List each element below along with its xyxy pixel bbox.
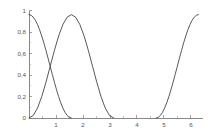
y-tick-label-2: 0,4	[17, 71, 26, 78]
x-tick-marks	[43, 115, 191, 118]
plot-canvas: 0 0,2 0,4 0,6 0,8 1 1 2 3 4 5 6	[0, 0, 208, 136]
x-tick-label-2: 3	[108, 121, 112, 128]
x-tick-label-0: 1	[54, 121, 58, 128]
x-tick-label-5: 6	[189, 121, 193, 128]
y-tick-marks	[29, 11, 32, 119]
y-tick-label-1: 0,2	[17, 93, 26, 100]
chart-container: 0 0,2 0,4 0,6 0,8 1 1 2 3 4 5 6	[0, 0, 208, 136]
data-curve-curve-2	[29, 15, 114, 118]
x-tick-label-1: 2	[81, 121, 85, 128]
x-tick-label-3: 4	[135, 121, 139, 128]
y-tick-label-5: 1	[23, 7, 27, 14]
data-curves	[29, 15, 199, 118]
y-tick-label-0: 0	[23, 114, 27, 121]
y-tick-label-4: 0,8	[17, 28, 26, 35]
y-tick-label-3: 0,6	[17, 50, 26, 57]
x-tick-labels: 1 2 3 4 5 6	[54, 121, 193, 128]
data-curve-curve-3	[156, 15, 198, 118]
y-tick-labels: 0 0,2 0,4 0,6 0,8 1	[17, 7, 26, 122]
x-tick-label-4: 5	[162, 121, 166, 128]
